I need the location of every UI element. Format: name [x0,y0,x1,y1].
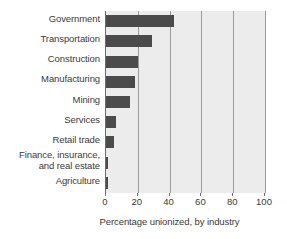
x-axis-tick-label: 40 [163,196,174,207]
y-axis-label-text: Manufacturing [41,73,100,84]
x-axis-tick-label: 60 [195,196,206,207]
y-axis-label: Services [0,115,100,126]
bar-row [106,31,265,51]
y-axis-label: Mining [0,95,100,106]
bar-row [106,51,265,71]
y-axis-label: Finance, insurance, and real estate [0,150,100,171]
bar-row [106,112,265,132]
y-axis-label-text: Retail trade [53,134,100,145]
bar-row [106,173,265,193]
bar-row [106,92,265,112]
x-axis-tick-label: 100 [256,196,272,207]
y-axis-label-text: Transportation [40,33,100,44]
x-axis-tick-label: 20 [132,196,143,207]
gridline [265,11,266,193]
bar [106,15,174,27]
bar-row [106,153,265,173]
y-axis-label: Manufacturing [0,74,100,85]
y-axis-label-text: Mining [73,94,100,105]
x-axis: 020406080100 [105,193,264,209]
bar [106,56,138,68]
x-axis-tick-label: 80 [227,196,238,207]
y-axis-label-text: Finance, insurance, [0,150,100,161]
bar-chart: Government Transportation Construction M… [0,0,287,239]
y-axis-label: Government [0,14,100,25]
y-axis-label: Transportation [0,34,100,45]
y-axis-label: Construction [0,54,100,65]
bar-row [106,72,265,92]
y-axis-label-text: Construction [48,53,100,64]
bar [106,136,114,148]
x-axis-title: Percentage unionized, by industry [0,216,287,227]
bar [106,35,152,47]
bar [106,96,130,108]
x-axis-title-text: Percentage unionized, by industry [48,216,240,227]
y-axis-label-text: and real estate [0,161,100,172]
bar [106,116,116,128]
plot-area [105,11,265,193]
x-axis-tick-label: 0 [102,196,107,207]
bar [106,157,108,169]
bar [106,177,108,189]
y-axis-label: Retail trade [0,135,100,146]
y-axis-label-text: Agriculture [56,175,100,186]
y-axis-label: Agriculture [0,176,100,187]
y-axis-labels: Government Transportation Construction M… [0,11,100,193]
y-axis-label-text: Government [49,13,100,24]
bar-row [106,11,265,31]
y-axis-label-text: Services [64,114,100,125]
bar [106,76,135,88]
bar-row [106,132,265,152]
